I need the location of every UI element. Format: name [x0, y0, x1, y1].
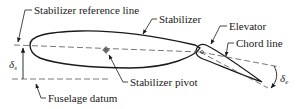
leader-stabilizer: [143, 19, 157, 34]
label-elevator: Elevator: [229, 20, 267, 32]
label-stabilizer-reference-line: Stabilizer reference line: [34, 4, 139, 16]
label-chord-line: Chord line: [236, 37, 283, 49]
leader-stabilizer-reference-line: [18, 10, 32, 42]
delta-e-symbol: δe: [280, 72, 288, 86]
elevator-airfoil: [196, 44, 262, 82]
stabilizer-airfoil: [30, 31, 200, 68]
label-stabilizer: Stabilizer: [159, 13, 201, 25]
leader-chord-line: [226, 43, 234, 56]
delta-e-arc-arrow: [271, 66, 277, 88]
delta-s-symbol: δs: [9, 58, 17, 72]
elevator-chord-line: [200, 52, 268, 88]
label-fuselage-datum: Fuselage datum: [48, 92, 118, 104]
leader-elevator: [211, 26, 227, 44]
stabilizer-elevator-diagram: δs δe Stabilizer reference line Stabiliz…: [0, 0, 297, 109]
stabilizer-pivot-icon: [102, 46, 110, 54]
chord-line-extension: [200, 52, 280, 67]
leader-fuselage-datum: [36, 84, 46, 98]
label-stabilizer-pivot: Stabilizer pivot: [130, 76, 198, 88]
